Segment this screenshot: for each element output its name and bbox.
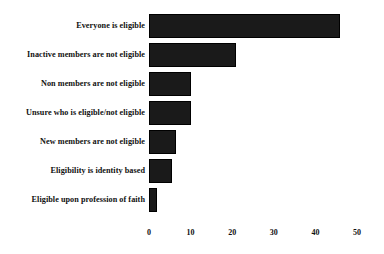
x-tick-label: 10 [187, 228, 195, 237]
x-tick-label: 20 [228, 228, 236, 237]
x-axis: 0 10 20 30 40 50 [149, 228, 357, 242]
category-label: Inactive members are not eligible [27, 51, 145, 60]
bar-row [149, 186, 357, 215]
category-label: New members are not eligible [40, 138, 145, 147]
bar [149, 130, 176, 154]
bar-row [149, 157, 357, 186]
bar-row [149, 128, 357, 157]
category-label-row: Inactive members are not eligible [0, 41, 145, 70]
bar-chart: Everyone is eligible Inactive members ar… [0, 0, 384, 254]
category-label: Everyone is eligible [76, 22, 145, 31]
bar [149, 14, 340, 38]
category-label-row: Eligible upon profession of faith [0, 186, 145, 215]
bar [149, 43, 236, 67]
bar-row [149, 12, 357, 41]
x-tick-label: 30 [270, 228, 278, 237]
x-tick-label: 40 [311, 228, 319, 237]
bar-row [149, 41, 357, 70]
category-label-row: Everyone is eligible [0, 12, 145, 41]
category-label: Eligible upon profession of faith [32, 196, 145, 205]
category-label: Unsure who is eligible/not eligible [26, 109, 145, 118]
category-label-row: New members are not eligible [0, 128, 145, 157]
bar [149, 188, 157, 212]
category-label-row: Eligibility is identity based [0, 157, 145, 186]
bar-row [149, 99, 357, 128]
bar-row [149, 70, 357, 99]
category-label: Eligibility is identity based [51, 167, 146, 176]
bar [149, 159, 172, 183]
plot-area [149, 12, 357, 215]
x-tick-label: 50 [353, 228, 361, 237]
category-label: Non members are not eligible [41, 80, 145, 89]
category-axis-labels: Everyone is eligible Inactive members ar… [0, 12, 145, 215]
category-label-row: Non members are not eligible [0, 70, 145, 99]
x-tick-label: 0 [147, 228, 151, 237]
category-label-row: Unsure who is eligible/not eligible [0, 99, 145, 128]
bar [149, 72, 191, 96]
bar [149, 101, 191, 125]
